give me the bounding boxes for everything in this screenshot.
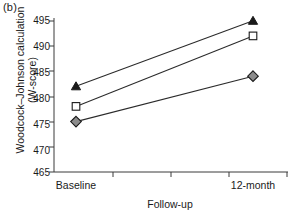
figure-panel-b: (b) Woodcock–Johnson calculation (W-scor…: [0, 0, 292, 217]
marker-triangle-baseline: [71, 82, 80, 90]
y-tick-marks: [49, 21, 54, 172]
marker-square-12-month: [249, 32, 257, 40]
marker-square-baseline: [72, 103, 80, 111]
marker-diamond-baseline: [71, 116, 82, 127]
series-triangle-line: [76, 21, 253, 87]
plot-area: [0, 0, 292, 217]
marker-triangle-12-month: [248, 16, 257, 24]
series-square-line: [76, 36, 253, 107]
series-diamond-line: [76, 76, 253, 121]
x-tick-marks: [113, 172, 287, 177]
marker-diamond-12-month: [248, 71, 259, 82]
